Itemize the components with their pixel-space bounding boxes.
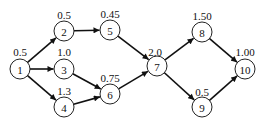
node-3: 31.0 — [54, 46, 74, 79]
node-weight: 1.50 — [192, 10, 212, 22]
edge-2-to-5 — [74, 30, 100, 31]
node-7: 72.0 — [147, 46, 167, 76]
node-weight: 0.5 — [57, 9, 71, 21]
node-weight: 0.5 — [195, 86, 209, 98]
node-1: 10.5 — [10, 46, 30, 79]
node-10: 101.00 — [235, 46, 255, 79]
edge-1-to-4 — [28, 76, 56, 101]
node-label: 3 — [61, 64, 67, 76]
node-8: 81.50 — [192, 10, 212, 42]
edge-1-to-2 — [28, 38, 56, 63]
node-weight: 0.5 — [13, 46, 27, 58]
node-label: 8 — [199, 27, 205, 39]
node-weight: 1.00 — [235, 46, 255, 58]
node-label: 5 — [107, 25, 113, 37]
edge-9-to-10 — [209, 76, 237, 100]
network-diagram: 10.520.531.041.350.4560.7572.081.5090.51… — [0, 0, 265, 123]
node-4: 41.3 — [54, 85, 74, 117]
node-layer: 10.520.531.041.350.4560.7572.081.5090.51… — [10, 8, 255, 117]
edge-8-to-10 — [210, 39, 237, 63]
edge-3-to-6 — [73, 74, 101, 89]
node-6: 60.75 — [100, 72, 120, 104]
edge-6-to-7 — [119, 71, 148, 89]
node-weight: 0.45 — [100, 8, 120, 20]
node-label: 7 — [154, 61, 160, 73]
node-weight: 2.0 — [148, 46, 162, 58]
node-weight: 1.0 — [57, 46, 71, 58]
edge-4-to-6 — [74, 97, 100, 104]
node-label: 1 — [17, 64, 23, 76]
node-label: 9 — [199, 102, 205, 114]
edge-7-to-9 — [164, 73, 194, 100]
node-label: 6 — [107, 89, 113, 101]
node-weight: 0.75 — [100, 72, 120, 84]
node-label: 4 — [61, 102, 67, 114]
edge-7-to-8 — [165, 38, 194, 60]
node-5: 50.45 — [100, 8, 120, 40]
node-2: 20.5 — [54, 9, 74, 41]
node-9: 90.5 — [192, 86, 212, 117]
node-weight: 1.3 — [57, 85, 71, 97]
node-label: 2 — [61, 26, 67, 38]
edge-5-to-7 — [118, 36, 149, 60]
node-label: 10 — [240, 64, 252, 76]
